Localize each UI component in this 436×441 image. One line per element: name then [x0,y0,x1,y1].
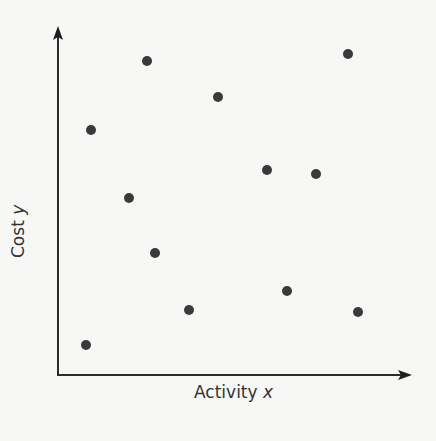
x-axis-label-text: Activity [194,382,263,402]
data-point [343,49,353,59]
axes [53,26,412,380]
data-point [311,169,321,179]
scatter-chart: Activity x Cost y [0,0,436,441]
y-axis-label: Cost y [8,205,28,258]
plot-area [0,0,436,441]
data-point [184,305,194,315]
data-point [81,340,91,350]
data-point [142,56,152,66]
data-points [81,49,363,350]
data-point [124,193,134,203]
y-axis-label-text: Cost [8,215,28,258]
data-point [262,165,272,175]
data-point [213,92,223,102]
data-point [282,286,292,296]
x-axis-label: Activity x [194,382,273,402]
y-axis-variable: y [8,205,28,215]
data-point [150,248,160,258]
data-point [86,125,96,135]
data-point [353,307,363,317]
x-axis-variable: x [263,382,273,402]
